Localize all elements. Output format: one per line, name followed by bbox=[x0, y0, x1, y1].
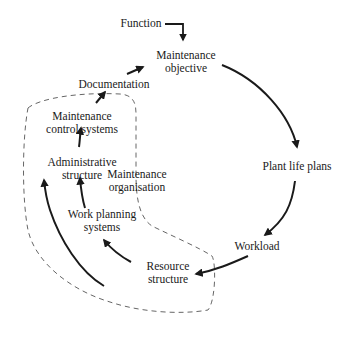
node-maintenance-control-systems-line2: control systems bbox=[37, 123, 127, 136]
node-resource-structure-line1: Resource bbox=[138, 260, 198, 273]
node-work-planning-systems-line1: Work planning bbox=[62, 208, 142, 221]
node-maintenance-objective: Maintenance objective bbox=[146, 49, 226, 75]
maintenance-cycle-diagram: Function Maintenance objective Plant lif… bbox=[0, 0, 344, 341]
node-resource-structure: Resource structure bbox=[138, 260, 198, 286]
arrow-documentation-to-objective bbox=[127, 67, 143, 74]
node-maintenance-objective-line2: objective bbox=[146, 62, 226, 75]
node-plant-life-plans-label: Plant life plans bbox=[263, 160, 332, 172]
node-function: Function bbox=[116, 17, 166, 30]
group-label-line1: Maintenance bbox=[104, 168, 170, 181]
arrow-resource-to-work-planning bbox=[104, 240, 131, 262]
node-function-label: Function bbox=[121, 17, 162, 29]
arrow-work-planning-to-administrative bbox=[80, 178, 85, 208]
node-workload-label: Workload bbox=[234, 240, 279, 252]
arrow-plant-life-plans-to-workload bbox=[265, 181, 295, 235]
group-label-maintenance-organisation: Maintenance organisation bbox=[104, 168, 170, 194]
node-documentation: Documentation bbox=[74, 78, 154, 91]
arrow-workload-to-resource-structure bbox=[196, 256, 248, 274]
node-work-planning-systems: Work planning systems bbox=[62, 208, 142, 234]
node-maintenance-control-systems: Maintenance control systems bbox=[37, 110, 127, 136]
arrow-function-to-objective bbox=[165, 24, 183, 40]
node-maintenance-control-systems-line1: Maintenance bbox=[37, 110, 127, 123]
node-documentation-label: Documentation bbox=[79, 78, 150, 90]
node-workload: Workload bbox=[222, 240, 292, 253]
node-plant-life-plans: Plant life plans bbox=[252, 160, 342, 173]
group-label-line2: organisation bbox=[104, 181, 170, 194]
node-resource-structure-line2: structure bbox=[138, 273, 198, 286]
node-maintenance-objective-line1: Maintenance bbox=[146, 49, 226, 62]
arrow-objective-to-plant-life-plans bbox=[222, 65, 297, 147]
node-work-planning-systems-line2: systems bbox=[62, 221, 142, 234]
